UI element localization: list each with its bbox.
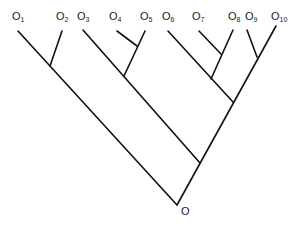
branch-o8-to-j678 [211, 30, 233, 79]
leaf-label-o7: O7 [192, 11, 204, 23]
branch-o6 [168, 31, 233, 102]
branch-o9 [247, 30, 257, 57]
leaf-label-o10: O10 [271, 11, 287, 23]
leaf-label-o8: O8 [228, 11, 240, 23]
leaf-label-o1: O1 [12, 11, 24, 23]
leaf-label-o2: O2 [56, 11, 68, 23]
leaf-label-o4: O4 [109, 11, 121, 23]
tree-diagram [0, 0, 302, 226]
branch-o10-to-root [177, 26, 276, 205]
branch-o3 [83, 30, 200, 163]
leaf-label-o9: O9 [245, 11, 257, 23]
branch-o2 [50, 31, 62, 66]
root-label: O [181, 206, 190, 217]
branch-o7 [199, 31, 221, 54]
leaf-label-o6: O6 [162, 11, 174, 23]
leaf-label-o3: O3 [77, 11, 89, 23]
leaf-label-o5: O5 [140, 11, 152, 23]
branch-o1 [18, 31, 177, 205]
branch-o4 [117, 31, 137, 46]
